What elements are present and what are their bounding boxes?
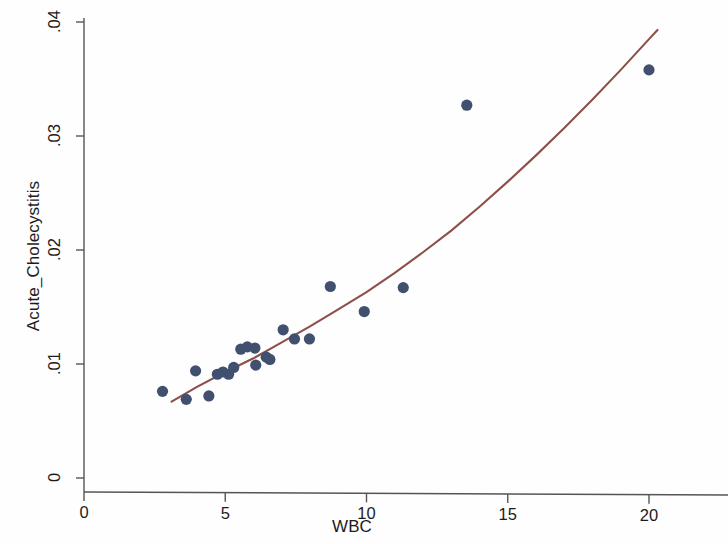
y-tick-label: .02 [45, 230, 64, 270]
y-tick-label: 0 [45, 458, 64, 498]
y-tick-marks [76, 22, 84, 478]
data-point [461, 100, 472, 111]
axes [84, 18, 728, 495]
data-point [643, 64, 654, 75]
x-tick-label: 5 [205, 504, 245, 523]
data-point [181, 394, 192, 405]
scatter-plot-figure: Acute_Cholecystitis WBC 0.01.02.03.04051… [0, 0, 728, 544]
y-tick-label: .01 [45, 344, 64, 384]
data-point [249, 342, 260, 353]
data-point [278, 324, 289, 335]
x-tick-label: 10 [347, 504, 387, 523]
data-point [289, 333, 300, 344]
chart-canvas [0, 0, 728, 544]
data-point [190, 365, 201, 376]
data-point [203, 390, 214, 401]
x-axis-line [84, 492, 728, 495]
x-tick-label: 0 [64, 503, 104, 522]
data-point [359, 306, 370, 317]
data-point [304, 333, 315, 344]
data-point [228, 362, 239, 373]
y-tick-label: .04 [45, 2, 64, 42]
x-tick-label: 20 [629, 506, 669, 525]
data-point [250, 360, 261, 371]
data-point [398, 282, 409, 293]
data-point-group [157, 64, 655, 405]
data-point [157, 386, 168, 397]
y-axis-title: Acute_Cholecystitis [24, 136, 44, 376]
x-tick-label: 15 [488, 505, 528, 524]
data-point [325, 281, 336, 292]
y-tick-label: .03 [45, 116, 64, 156]
data-point [264, 354, 275, 365]
